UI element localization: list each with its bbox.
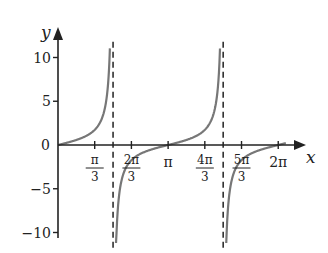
y-tick-label: −10 (21, 225, 51, 241)
x-axis-title: x (306, 147, 316, 167)
x-ticks: π32π3π4π35π32π (86, 141, 288, 184)
tan-chart: π32π3π4π35π32π 1050−5−10 x y (0, 0, 328, 253)
y-axis-arrow-icon (53, 27, 63, 40)
x-tick-numerator: 2π (124, 153, 140, 167)
x-axis-arrow-icon (294, 140, 306, 150)
x-tick-denominator: 3 (128, 170, 136, 184)
y-tick-label: −5 (30, 181, 51, 197)
x-tick-numerator: π (91, 153, 99, 167)
y-tick-label: 0 (41, 137, 50, 153)
y-ticks: 1050−5−10 (21, 50, 58, 241)
y-tick-label: 5 (42, 93, 51, 109)
x-tick-numerator: 5π (234, 153, 250, 167)
y-tick-label: 10 (33, 50, 51, 66)
x-tick-denominator: 3 (238, 170, 246, 184)
x-tick-label: 2π (269, 154, 287, 170)
x-tick-denominator: 3 (201, 170, 209, 184)
tan-curve-segment (58, 48, 110, 145)
x-tick-numerator: 4π (197, 153, 213, 167)
x-tick-label: π (164, 154, 173, 170)
y-axis-title: y (40, 22, 51, 42)
x-tick-denominator: 3 (91, 170, 99, 184)
